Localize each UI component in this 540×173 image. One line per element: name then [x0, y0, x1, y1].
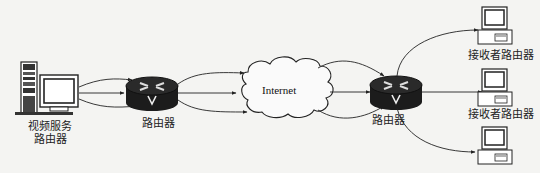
video-server-label-line2: 路由器 [22, 133, 78, 146]
router-left-label: 路由器 [138, 117, 178, 130]
receiver-top-computer-icon [478, 7, 512, 44]
receiver-middle-label: 接收者路由器 [462, 108, 540, 121]
receiver-top-label: 接收者路由器 [462, 49, 540, 62]
video-server-label-line1: 视频服务 [22, 120, 78, 133]
receiver-bottom-computer-icon [478, 127, 512, 164]
router-right-icon [370, 76, 422, 110]
internet-label: Internet [262, 84, 296, 96]
receiver-middle-computer-icon [478, 69, 512, 106]
server-monitor-icon [40, 75, 78, 111]
router-left-icon [126, 77, 178, 111]
video-server-label: 视频服务 路由器 [22, 120, 78, 146]
router-right-label: 路由器 [368, 114, 408, 127]
network-diagram: 视频服务 路由器 路由器 Internet 路由器 接收者路由器 接收者路由器 [0, 0, 540, 173]
